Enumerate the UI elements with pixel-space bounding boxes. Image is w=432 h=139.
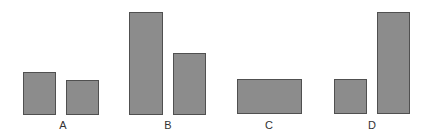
bar-c-1 [237, 79, 302, 114]
bar-a-2 [66, 80, 99, 115]
group-label-a: A [53, 119, 73, 131]
bar-a-1 [23, 72, 56, 115]
bar-d-1 [334, 79, 367, 114]
group-label-d: D [362, 119, 382, 131]
bar-b-1 [129, 12, 163, 115]
bar-b-2 [173, 53, 206, 115]
bar-d-2 [377, 12, 410, 114]
group-label-b: B [158, 119, 178, 131]
group-label-c: C [259, 119, 279, 131]
